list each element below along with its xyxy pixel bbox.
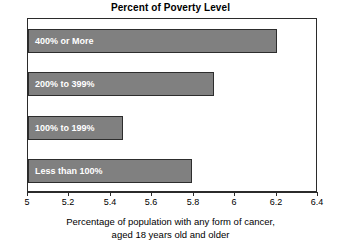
x-axis-tick [110, 192, 111, 196]
bar-category-label: 200% to 399% [35, 79, 95, 89]
bar-row: 400% or More [28, 29, 316, 53]
bar-category-label: Less than 100% [35, 166, 103, 176]
x-axis-title-line-1: Percentage of population with any form o… [10, 215, 331, 228]
bar-row: 100% to 199% [28, 116, 316, 140]
x-axis-tick [193, 192, 194, 196]
x-axis-tick [317, 192, 318, 196]
bar-category-label: 400% or More [35, 36, 94, 46]
bar-row: Less than 100% [28, 159, 316, 183]
x-axis-title-line-2: aged 18 years old and older [10, 228, 331, 241]
x-axis-tick [234, 192, 235, 196]
chart-title: Percent of Poverty Level [0, 2, 341, 14]
x-axis-tick [151, 192, 152, 196]
x-axis-title: Percentage of population with any form o… [10, 215, 331, 241]
bar-category-label: 100% to 199% [35, 123, 95, 133]
x-axis-tick-label: 6.2 [256, 197, 296, 208]
x-axis-tick-label: 5.6 [131, 197, 171, 208]
x-axis-tick-label: 6.4 [297, 197, 337, 208]
x-axis-tick-label: 5.8 [173, 197, 213, 208]
plot-area: 400% or More200% to 399%100% to 199%Less… [27, 18, 317, 192]
x-axis-tick-label: 5 [7, 197, 47, 208]
x-axis-line [27, 192, 317, 193]
bar-chart: Percent of Poverty Level 400% or More200… [0, 0, 341, 251]
x-axis-tick [27, 192, 28, 196]
x-axis-tick [276, 192, 277, 196]
bars-layer: 400% or More200% to 399%100% to 199%Less… [28, 19, 316, 191]
bar-row: 200% to 399% [28, 72, 316, 96]
x-axis-tick-label: 6 [214, 197, 254, 208]
x-axis-tick-label: 5.2 [48, 197, 88, 208]
x-axis-tick [68, 192, 69, 196]
x-axis-tick-label: 5.4 [90, 197, 130, 208]
